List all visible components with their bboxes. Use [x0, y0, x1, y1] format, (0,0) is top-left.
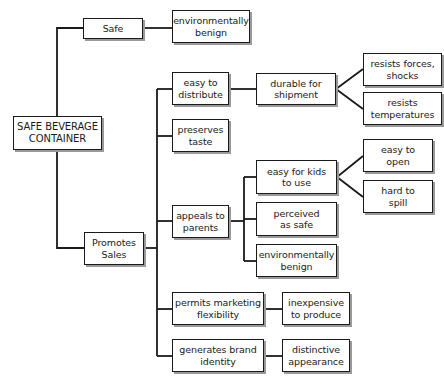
node-label-line: perceived [274, 208, 320, 220]
node-label-line: resists forces, [370, 58, 434, 70]
node-easy-for-kids-to-use: easy for kids to use [256, 160, 337, 194]
node-label-line: parents [183, 222, 218, 234]
node-promotes-sales: Promotes Sales [84, 232, 144, 265]
node-parents-environmentally-benign: environmentally benign [256, 244, 337, 277]
node-label-line: resists [387, 97, 417, 109]
node-permits-marketing-flexibility: permits marketing flexibility [172, 292, 264, 325]
node-easy-to-open: easy to open [363, 139, 433, 172]
node-generates-brand-identity: generates brand identity [172, 339, 264, 372]
node-label-line: spill [389, 197, 407, 209]
node-label-line: as safe [280, 219, 313, 231]
node-resists-temperatures: resists temperatures [363, 92, 442, 125]
node-label-line: generates brand [179, 344, 256, 356]
node-appeals-to-parents: appeals to parents [172, 205, 229, 238]
node-hard-to-spill: hard to spill [363, 180, 433, 213]
node-label-line: Safe [103, 23, 124, 35]
root-node-safe-beverage-container: SAFE BEVERAGE CONTAINER [13, 116, 102, 150]
node-label-line: shipment [274, 89, 318, 101]
node-inexpensive-to-produce: inexpensive to produce [282, 292, 350, 325]
node-label-line: appeals to [176, 210, 225, 222]
node-label-line: benign [195, 27, 227, 39]
node-label-line: easy to [183, 77, 217, 89]
node-label-line: durable for [270, 78, 321, 90]
node-label-line: appearance [288, 356, 343, 368]
node-safe: Safe [83, 18, 143, 39]
node-easy-to-distribute: easy to distribute [172, 72, 229, 105]
node-label-line: identity [200, 356, 235, 368]
node-label-line: open [386, 156, 409, 168]
node-label-line: Promotes [92, 237, 136, 249]
node-durable-for-shipment: durable for shipment [256, 73, 336, 105]
node-label-line: distribute [178, 89, 223, 101]
node-label-line: benign [281, 261, 313, 273]
node-label-line: permits marketing [175, 297, 261, 309]
node-label-line: to produce [291, 309, 341, 321]
node-label-line: preserves [178, 124, 224, 136]
node-label-line: hard to [381, 185, 414, 197]
node-safe-environmentally-benign: environmentally benign [172, 10, 250, 43]
node-label-line: environmentally [259, 249, 335, 261]
node-label-line: distinctive [292, 344, 340, 356]
node-resists-forces-shocks: resists forces, shocks [363, 53, 442, 86]
node-label-line: CONTAINER [29, 133, 86, 145]
node-label-line: flexibility [197, 309, 239, 321]
node-label-line: Sales [102, 249, 127, 261]
node-distinctive-appearance: distinctive appearance [282, 339, 350, 372]
node-label-line: inexpensive [288, 297, 344, 309]
node-label-line: temperatures [371, 109, 434, 121]
node-label-line: easy for kids [267, 166, 326, 178]
node-label-line: SAFE BEVERAGE [17, 121, 98, 133]
node-preserves-taste: preserves taste [172, 119, 229, 152]
node-label-line: shocks [387, 70, 419, 82]
node-label-line: environmentally [173, 15, 249, 27]
node-label-line: easy to [381, 144, 415, 156]
node-perceived-as-safe: perceived as safe [256, 202, 337, 236]
node-label-line: to use [282, 177, 311, 189]
node-label-line: taste [189, 136, 213, 148]
